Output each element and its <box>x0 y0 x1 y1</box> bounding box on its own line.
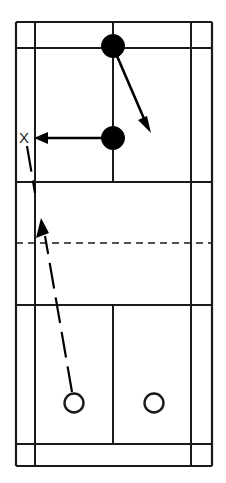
opponent-rear-marker <box>102 35 125 58</box>
badminton-court-diagram: X <box>0 0 226 483</box>
opponent-front-marker <box>102 127 125 150</box>
shot-arrow-diagonal <box>117 56 151 133</box>
target-x-label: X <box>19 129 29 146</box>
shot-arrow-to-target <box>34 132 103 144</box>
player-left-marker <box>65 394 84 413</box>
court-svg: X <box>0 0 226 483</box>
target-continuation-path <box>27 146 35 193</box>
player-right-marker <box>145 394 164 413</box>
